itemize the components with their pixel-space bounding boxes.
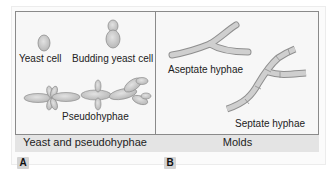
pseudohyphae-label: Pseudohyphae <box>62 111 129 122</box>
panel-b-tag: B <box>164 157 176 169</box>
aseptate-hyphae-label: Aseptate hyphae <box>168 64 243 75</box>
panel-a-tag: A <box>17 157 29 169</box>
panel-a-caption: Yeast and pseudohyphae <box>15 136 155 148</box>
yeast-cell-label: Yeast cell <box>19 53 61 64</box>
budding-yeast-icon <box>106 20 120 48</box>
pseudohyphae-icon <box>24 75 151 110</box>
septate-hyphae-icon <box>227 49 306 109</box>
septate-hyphae-label: Septate hyphae <box>235 118 305 129</box>
aseptate-hyphae-icon <box>172 25 248 55</box>
illustrations <box>0 0 331 181</box>
panel-b-caption: Molds <box>156 136 319 148</box>
budding-yeast-cell-label: Budding yeast cell <box>72 53 153 64</box>
yeast-cell-icon <box>38 35 50 51</box>
